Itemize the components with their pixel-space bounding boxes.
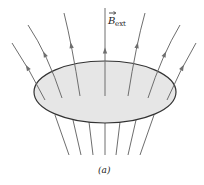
field-line (140, 115, 154, 155)
field-subscript: ext (115, 20, 126, 28)
field-line (89, 122, 93, 155)
arrowhead-icon (41, 51, 48, 58)
field-line (73, 120, 81, 155)
arrowhead-icon (103, 48, 107, 54)
field-line (55, 115, 69, 155)
field-label: B ext (107, 12, 126, 29)
figure-caption: (a) (98, 165, 111, 175)
field-line (116, 122, 120, 155)
arrowhead-icon (24, 64, 31, 71)
field-line (128, 120, 136, 155)
arrowhead-icon (162, 51, 168, 58)
arrowhead-icon (179, 64, 186, 71)
field-diagram: B ext (a) (0, 0, 204, 185)
